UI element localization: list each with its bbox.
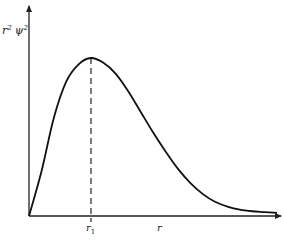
y-axis-label: r2ψ2 (2, 24, 28, 37)
chart: r2ψ2 r r1 (0, 0, 284, 241)
x-axis-label: r (157, 222, 163, 233)
series-line (29, 58, 277, 216)
r1-tick-label: r1 (86, 222, 95, 236)
